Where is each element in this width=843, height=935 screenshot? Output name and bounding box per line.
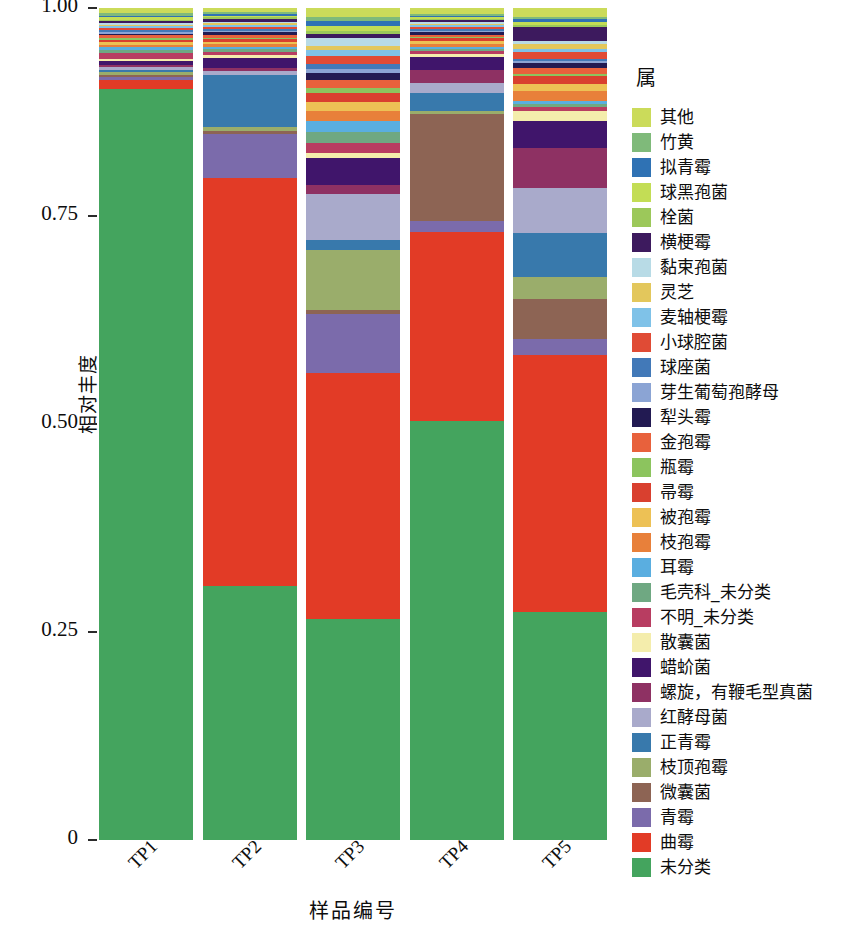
legend-item[interactable]: 未分类 [632,855,842,880]
bar-segment[interactable] [513,188,607,233]
bar-segment[interactable] [306,250,400,310]
legend-item[interactable]: 横梗霉 [632,230,842,255]
legend-item[interactable]: 灵芝 [632,280,842,305]
legend-item-label: 未分类 [660,859,711,876]
legend-item[interactable]: 螺旋，有鞭毛型真菌 [632,680,842,705]
bar-segment[interactable] [410,221,504,232]
bar-segment[interactable] [306,121,400,132]
bar-segment[interactable] [99,89,193,840]
bar-segment[interactable] [513,84,607,91]
bar-segment[interactable] [306,194,400,240]
bar-segment[interactable] [410,83,504,93]
legend-item[interactable]: 球黑孢菌 [632,180,842,205]
legend-color-swatch [632,458,651,477]
legend-item[interactable]: 竹黄 [632,130,842,155]
legend-item[interactable]: 金孢霉 [632,430,842,455]
bar-segment[interactable] [306,102,400,111]
legend-item-label: 被孢霉 [660,509,711,526]
legend-item[interactable]: 散囊菌 [632,630,842,655]
bar-segment[interactable] [410,421,504,840]
stacked-bar-tp4[interactable] [410,8,504,840]
y-axis-title: 相对丰度 [73,314,100,474]
bar-segment[interactable] [410,114,504,221]
legend-item[interactable]: 微囊菌 [632,780,842,805]
legend-item[interactable]: 麦轴梗霉 [632,305,842,330]
legend-item-label: 球座菌 [660,359,711,376]
bar-segment[interactable] [306,80,400,88]
legend-item[interactable]: 曲霉 [632,830,842,855]
bar-segment[interactable] [513,121,607,149]
bar-segment[interactable] [306,8,400,17]
bar-segment[interactable] [513,299,607,339]
bar-segment[interactable] [513,27,607,42]
legend-item[interactable]: 枝孢霉 [632,530,842,555]
bar-segment[interactable] [306,93,400,102]
bar-segment[interactable] [306,111,400,121]
legend-item[interactable]: 正青霉 [632,730,842,755]
legend-item[interactable]: 拟青霉 [632,155,842,180]
plot-area [99,8,607,840]
y-tick-label: 0.50 [0,409,78,434]
bar-segment[interactable] [410,70,504,84]
stacked-bar-tp2[interactable] [203,8,297,840]
bar-segment[interactable] [410,232,504,421]
bar-segment[interactable] [513,277,607,299]
bar-segment[interactable] [306,158,400,185]
legend-item[interactable]: 球座菌 [632,355,842,380]
legend-item-label: 枝顶孢霉 [660,759,728,776]
legend-item-label: 其他 [660,109,694,126]
legend-item-label: 螺旋，有鞭毛型真菌 [660,684,813,701]
bar-segment[interactable] [306,143,400,153]
legend-item[interactable]: 被孢霉 [632,505,842,530]
bar-segment[interactable] [513,76,607,83]
legend-item[interactable]: 栓菌 [632,205,842,230]
bar-segment[interactable] [513,148,607,188]
legend-item-label: 瓶霉 [660,459,694,476]
legend-color-swatch [632,133,651,152]
legend-item[interactable]: 蜡蚧菌 [632,655,842,680]
legend-color-swatch [632,583,651,602]
bar-segment[interactable] [306,314,400,373]
bar-segment[interactable] [410,57,504,69]
legend-item[interactable]: 毛壳科_未分类 [632,580,842,605]
legend-color-swatch [632,183,651,202]
bar-segment[interactable] [410,93,504,111]
bar-segment[interactable] [513,8,607,17]
legend-item[interactable]: 芽生葡萄孢酵母 [632,380,842,405]
legend-item[interactable]: 帚霉 [632,480,842,505]
bar-segment[interactable] [306,132,400,144]
bar-segment[interactable] [203,134,297,178]
bar-segment[interactable] [513,355,607,612]
legend-item[interactable]: 红酵母菌 [632,705,842,730]
legend-item[interactable]: 小球腔菌 [632,330,842,355]
bar-segment[interactable] [513,233,607,277]
bar-segment[interactable] [306,619,400,840]
bar-segment[interactable] [99,80,193,88]
bar-segment[interactable] [513,111,607,120]
bar-segment[interactable] [203,58,297,68]
bar-segment[interactable] [306,185,400,194]
bar-segment[interactable] [513,91,607,101]
legend-item[interactable]: 枝顶孢霉 [632,755,842,780]
bar-segment[interactable] [203,586,297,840]
bar-segment[interactable] [306,56,400,64]
bar-segment[interactable] [203,178,297,586]
legend-item[interactable]: 瓶霉 [632,455,842,480]
legend-item[interactable]: 黏束孢菌 [632,255,842,280]
legend-item[interactable]: 其他 [632,105,842,130]
bar-segment[interactable] [306,373,400,619]
legend-item[interactable]: 犁头霉 [632,405,842,430]
stacked-bar-tp3[interactable] [306,8,400,840]
bar-segment[interactable] [513,339,607,355]
stacked-bar-tp5[interactable] [513,8,607,840]
stacked-bar-tp1[interactable] [99,8,193,840]
bar-segment[interactable] [306,240,400,250]
legend-item[interactable]: 青霉 [632,805,842,830]
bar-segment[interactable] [513,612,607,840]
bar-segment[interactable] [306,38,400,46]
bar-segment[interactable] [513,52,607,59]
stacked-bar-chart-figure: 相对丰度 1.000.750.500.250 TP1TP2TP3TP4TP5 样… [0,0,843,935]
legend-item[interactable]: 耳霉 [632,555,842,580]
legend-item[interactable]: 不明_未分类 [632,605,842,630]
bar-segment[interactable] [203,75,297,128]
